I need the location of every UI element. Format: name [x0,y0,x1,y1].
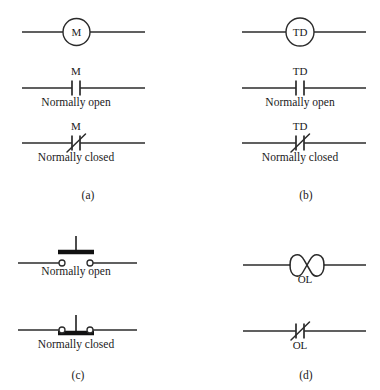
caption-panel-a: (a) [82,190,95,202]
label-td-coil: TD [293,27,308,38]
state-label-m-nc: Normally closed [38,152,114,164]
label-m-coil: M [72,27,82,38]
caption-panel-d: (d) [299,370,312,382]
symbol-m-coil [22,19,145,46]
state-label-td-nc: Normally closed [262,152,338,164]
state-label-pushbutton-nc: Normally closed [38,339,114,351]
symbol-td-contact-no [242,81,366,96]
label-m-contact-nc: M [71,121,81,132]
symbol-m-contact-nc [22,134,145,152]
label-m-contact-no: M [71,66,81,77]
figure-root: M Normally open M Normally closed (a) M … [0,0,380,390]
label-td-contact-nc: TD [293,121,308,132]
label-ol-heater: OL [298,274,313,285]
caption-panel-c: (c) [72,370,85,382]
state-label-m-no: Normally open [41,97,110,109]
symbol-pushbutton-no [18,236,137,266]
symbol-m-contact-no [22,81,145,96]
symbol-ol-contact-nc [243,322,366,340]
label-td-contact-no: TD [293,66,308,77]
label-ol-contact: OL [293,340,308,351]
state-label-pushbutton-no: Normally open [41,266,110,278]
caption-panel-b: (b) [299,190,312,202]
schematic-canvas [0,0,380,390]
symbol-td-contact-nc [242,134,366,152]
state-label-td-no: Normally open [265,97,334,109]
symbol-pushbutton-nc [18,315,137,333]
